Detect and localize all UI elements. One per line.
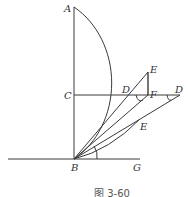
label-c: C bbox=[64, 90, 72, 101]
label-g: G bbox=[133, 162, 141, 173]
label-f: F bbox=[149, 89, 158, 100]
line-be-upper bbox=[74, 72, 148, 159]
label-d-outer: D bbox=[174, 84, 183, 95]
label-b: B bbox=[70, 162, 78, 173]
label-e-upper: E bbox=[149, 64, 158, 75]
label-a: A bbox=[63, 3, 71, 14]
angle-mark-d bbox=[167, 95, 171, 100]
geometry-figure: A C B G D D E E F 图 3-60 bbox=[0, 0, 188, 197]
label-d-inner: D bbox=[121, 84, 130, 95]
line-bd-outer bbox=[74, 95, 180, 159]
label-e-lower: E bbox=[139, 121, 148, 132]
angle-mark-b bbox=[94, 146, 97, 159]
line-bf bbox=[74, 95, 148, 159]
figure-caption: 图 3-60 bbox=[94, 188, 130, 197]
